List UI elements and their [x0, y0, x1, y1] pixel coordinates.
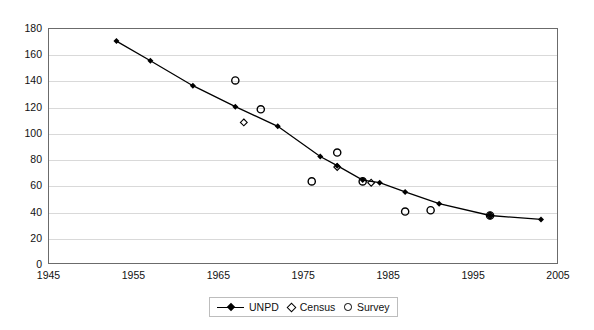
- data-series-layer: [0, 0, 594, 330]
- legend-item-unpd: UNPD: [217, 301, 279, 313]
- survey-data-point: [402, 208, 409, 215]
- unpd-data-point: [402, 189, 408, 195]
- legend-item-census: Census: [288, 301, 336, 313]
- series-unpd-markers: [113, 38, 544, 222]
- unpd-data-point: [377, 180, 383, 186]
- survey-data-point: [232, 77, 239, 84]
- unpd-data-point: [436, 201, 442, 207]
- unpd-data-point: [190, 83, 196, 89]
- circle-open-icon: [344, 303, 352, 311]
- series-survey-markers: [232, 77, 494, 219]
- unpd-data-point: [232, 104, 238, 110]
- legend-label-survey: Survey: [357, 301, 390, 313]
- survey-data-point: [334, 149, 341, 156]
- unpd-data-point: [147, 58, 153, 64]
- chart-legend: UNPD Census Survey: [209, 297, 398, 317]
- series-unpd-line: [116, 41, 541, 219]
- legend-item-survey: Survey: [344, 301, 389, 313]
- unpd-data-point: [113, 38, 119, 44]
- census-data-point: [368, 179, 375, 186]
- survey-data-point: [257, 106, 264, 113]
- survey-data-point: [427, 207, 434, 214]
- unpd-data-point: [538, 216, 544, 222]
- series-census-markers: [240, 119, 493, 219]
- legend-label-census: Census: [300, 301, 336, 313]
- survey-data-point: [308, 178, 315, 185]
- legend-label-unpd: UNPD: [249, 301, 279, 313]
- census-data-point: [240, 119, 247, 126]
- unpd-trend-line: [116, 41, 541, 219]
- diamond-open-icon: [286, 302, 296, 312]
- line-diamond-icon: [217, 303, 244, 312]
- chart-container: 020406080100120140160180 194519551965197…: [0, 0, 594, 330]
